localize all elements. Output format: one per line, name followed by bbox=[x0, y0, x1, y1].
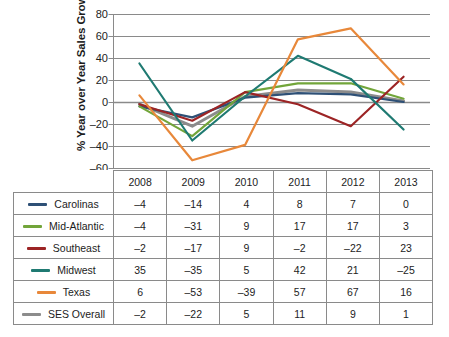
table-cell: –22 bbox=[167, 303, 220, 325]
table-corner-cell bbox=[14, 171, 114, 193]
legend-color-swatch-icon bbox=[37, 291, 56, 294]
table-cell: –31 bbox=[167, 215, 220, 237]
table-cell: 1 bbox=[379, 303, 432, 325]
legend-color-swatch-icon bbox=[23, 225, 42, 228]
table-cell: 23 bbox=[379, 237, 432, 259]
data-table: 2008 2009 2010 2011 2012 2013 Carolinas–… bbox=[13, 170, 433, 325]
table-body: Carolinas–4–144870Mid-Atlantic–4–3191717… bbox=[14, 193, 433, 325]
table-cell: –17 bbox=[167, 237, 220, 259]
table-cell: –4 bbox=[114, 215, 167, 237]
table-cell: –2 bbox=[114, 303, 167, 325]
table-cell: 9 bbox=[220, 215, 273, 237]
table-cell: 3 bbox=[379, 215, 432, 237]
table-cell: 9 bbox=[326, 303, 379, 325]
table-cell: 5 bbox=[220, 303, 273, 325]
table-cell: 11 bbox=[273, 303, 326, 325]
col-header-2008: 2008 bbox=[114, 171, 167, 193]
table-cell: 5 bbox=[220, 259, 273, 281]
legend-item-ses-overall: SES Overall bbox=[14, 303, 114, 325]
axis-spine bbox=[109, 14, 114, 169]
legend-item-mid-atlantic: Mid-Atlantic bbox=[14, 215, 114, 237]
series-line-southeast bbox=[139, 77, 403, 127]
table-row: SES Overall–2–2251191 bbox=[14, 303, 433, 325]
legend-color-swatch-icon bbox=[28, 203, 47, 206]
table-cell: –4 bbox=[114, 193, 167, 215]
chart-screenshot: % Year over Year Sales Growth 80 60 40 2… bbox=[0, 0, 449, 337]
table-cell: 35 bbox=[114, 259, 167, 281]
line-chart: % Year over Year Sales Growth 80 60 40 2… bbox=[0, 0, 449, 175]
table-cell: –22 bbox=[326, 237, 379, 259]
table-cell: 8 bbox=[273, 193, 326, 215]
legend-color-swatch-icon bbox=[31, 269, 50, 272]
table-row: Texas6–53–39576716 bbox=[14, 281, 433, 303]
legend-item-texas: Texas bbox=[14, 281, 114, 303]
legend-label: Texas bbox=[63, 286, 90, 298]
table-cell: –35 bbox=[167, 259, 220, 281]
table-cell: 0 bbox=[379, 193, 432, 215]
table-cell: 16 bbox=[379, 281, 432, 303]
series-lines bbox=[139, 28, 403, 160]
table-row: Midwest35–3554221–25 bbox=[14, 259, 433, 281]
legend-item-carolinas: Carolinas bbox=[14, 193, 114, 215]
table-cell: –14 bbox=[167, 193, 220, 215]
plot-canvas bbox=[0, 0, 449, 175]
table-row: Mid-Atlantic–4–31917173 bbox=[14, 215, 433, 237]
table-cell: 17 bbox=[326, 215, 379, 237]
table-cell: –2 bbox=[114, 237, 167, 259]
col-header-2013: 2013 bbox=[379, 171, 432, 193]
legend-label: SES Overall bbox=[48, 308, 105, 320]
table-cell: 6 bbox=[114, 281, 167, 303]
col-header-2012: 2012 bbox=[326, 171, 379, 193]
table-cell: 17 bbox=[273, 215, 326, 237]
table-row: Carolinas–4–144870 bbox=[14, 193, 433, 215]
table-cell: 67 bbox=[326, 281, 379, 303]
col-header-2010: 2010 bbox=[220, 171, 273, 193]
legend-label: Mid-Atlantic bbox=[49, 220, 104, 232]
table-header-row: 2008 2009 2010 2011 2012 2013 bbox=[14, 171, 433, 193]
table-cell: 7 bbox=[326, 193, 379, 215]
legend-label: Midwest bbox=[57, 264, 96, 276]
table-header: 2008 2009 2010 2011 2012 2013 bbox=[14, 171, 433, 193]
col-header-2009: 2009 bbox=[167, 171, 220, 193]
table-cell: 57 bbox=[273, 281, 326, 303]
table-cell: –39 bbox=[220, 281, 273, 303]
table-cell: 9 bbox=[220, 237, 273, 259]
table-cell: 4 bbox=[220, 193, 273, 215]
legend-label: Southeast bbox=[53, 242, 100, 254]
table-cell: –2 bbox=[273, 237, 326, 259]
table-cell: 21 bbox=[326, 259, 379, 281]
table-cell: 42 bbox=[273, 259, 326, 281]
legend-item-midwest: Midwest bbox=[14, 259, 114, 281]
table-cell: –25 bbox=[379, 259, 432, 281]
legend-color-swatch-icon bbox=[27, 247, 46, 250]
legend-item-southeast: Southeast bbox=[14, 237, 114, 259]
table-row: Southeast–2–179–2–2223 bbox=[14, 237, 433, 259]
col-header-2011: 2011 bbox=[273, 171, 326, 193]
table-cell: –53 bbox=[167, 281, 220, 303]
legend-color-swatch-icon bbox=[22, 313, 41, 316]
legend-label: Carolinas bbox=[54, 198, 98, 210]
